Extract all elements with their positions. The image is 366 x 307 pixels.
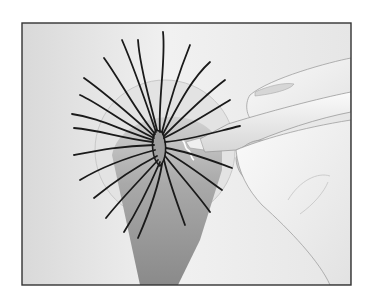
illustration-canvas [0,0,366,307]
illustration-frame [22,23,351,285]
